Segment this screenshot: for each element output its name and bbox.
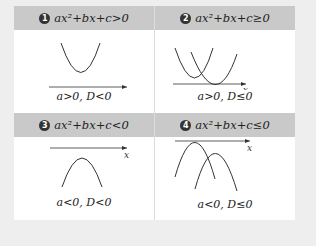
graph: x xyxy=(14,30,154,90)
condition: a>0, D<0 xyxy=(14,90,154,103)
cell-4: 4ax²+bx+c≤0 x a<0, D≤0 xyxy=(155,113,295,220)
inequality: ax²+bx+c≥0 xyxy=(195,11,269,25)
parabola xyxy=(195,153,237,191)
cell-header: 1ax²+bx+c>0 xyxy=(14,6,154,30)
cell-1: 1ax²+bx+c>0 x a>0, D<0 xyxy=(14,6,154,113)
parabola xyxy=(175,142,215,179)
condition: a<0, D≤0 xyxy=(155,198,295,211)
cell-header: 4ax²+bx+c≤0 xyxy=(155,113,295,137)
parabola xyxy=(191,52,237,85)
condition: a<0, D<0 xyxy=(14,196,154,209)
inequality: ax²+bx+c≤0 xyxy=(195,118,269,132)
number-badge: 1 xyxy=(39,13,50,24)
inequality: ax²+bx+c>0 xyxy=(54,11,128,25)
axis-label: x xyxy=(124,150,129,160)
parabola xyxy=(61,43,100,73)
number-badge: 4 xyxy=(180,120,191,131)
graph: x xyxy=(14,137,154,197)
inequality: ax²+bx+c<0 xyxy=(54,118,128,132)
graph: x xyxy=(155,30,295,90)
axis-label: x xyxy=(247,143,252,153)
cell-header: 2ax²+bx+c≥0 xyxy=(155,6,295,30)
condition: a>0, D≤0 xyxy=(155,90,295,103)
parabola xyxy=(175,48,213,78)
cell-2: 2ax²+bx+c≥0 x a>0, D≤0 xyxy=(155,6,295,113)
parabola xyxy=(62,158,102,187)
cell-3: 3ax²+bx+c<0 x a<0, D<0 xyxy=(14,113,154,220)
graph: x xyxy=(155,137,295,197)
number-badge: 2 xyxy=(180,13,191,24)
quadratic-inequality-table: 1ax²+bx+c>0 x a>0, D<0 2ax²+bx+c≥0 x a>0… xyxy=(14,6,295,220)
cell-header: 3ax²+bx+c<0 xyxy=(14,113,154,137)
number-badge: 3 xyxy=(39,120,50,131)
